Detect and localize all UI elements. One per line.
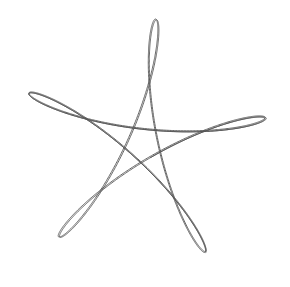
spirograph-canvas (0, 0, 290, 287)
spirograph-curve (29, 19, 267, 253)
